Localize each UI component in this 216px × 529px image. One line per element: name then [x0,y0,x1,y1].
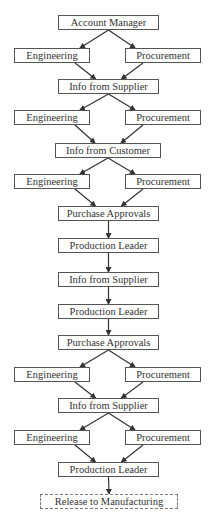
node-engineering: Engineering [14,48,90,63]
node-procurement: Procurement [125,430,201,445]
node-engineering: Engineering [14,110,90,125]
arrow-n8-to-n9 [122,189,144,206]
arrow-n3-to-n4 [80,94,109,110]
node-procurement: Procurement [125,174,201,189]
node-engineering: Engineering [14,367,90,382]
arrow-n18-to-n19 [122,445,144,462]
arrow-n0-to-n2 [109,30,136,48]
node-account-manager: Account Manager [58,15,159,30]
node-purchase-approvals: Purchase Approvals [58,335,159,350]
node-procurement: Procurement [125,110,201,125]
arrow-n0-to-n1 [80,30,109,48]
node-info-from-customer: Info from Customer [55,143,161,158]
node-procurement: Procurement [125,48,201,63]
flowchart: Account Manager Engineering Procurement … [0,0,216,529]
arrow-n4-to-n6 [75,125,95,143]
arrow-n5-to-n6 [121,125,143,143]
arrow-n14-to-n16 [75,382,96,398]
node-purchase-approvals: Purchase Approvals [58,206,159,221]
arrow-n16-to-n17 [80,413,109,430]
arrow-n16-to-n18 [109,413,136,430]
arrow-n7-to-n9 [75,189,96,206]
node-production-leader: Production Leader [58,304,159,319]
arrow-n15-to-n16 [122,382,144,398]
arrow-n13-to-n14 [80,350,109,367]
arrow-n1-to-n3 [75,63,96,79]
arrow-n6-to-n8 [108,158,135,174]
node-info-from-supplier: Info from Supplier [58,272,159,287]
arrow-n2-to-n3 [122,63,144,79]
node-procurement: Procurement [125,367,201,382]
arrow-n6-to-n7 [80,158,108,174]
node-info-from-supplier: Info from Supplier [58,398,159,413]
node-info-from-supplier: Info from Supplier [58,79,159,94]
arrow-n19-to-n20 [109,477,110,494]
node-production-leader: Production Leader [58,238,159,253]
arrow-n17-to-n19 [75,445,96,462]
node-engineering: Engineering [14,174,90,189]
arrow-n3-to-n5 [109,94,136,110]
node-production-leader: Production Leader [58,462,159,477]
node-engineering: Engineering [14,430,90,445]
node-release-to-manufacturing: Release to Manufacturing [40,494,178,509]
arrow-n13-to-n15 [109,350,136,367]
